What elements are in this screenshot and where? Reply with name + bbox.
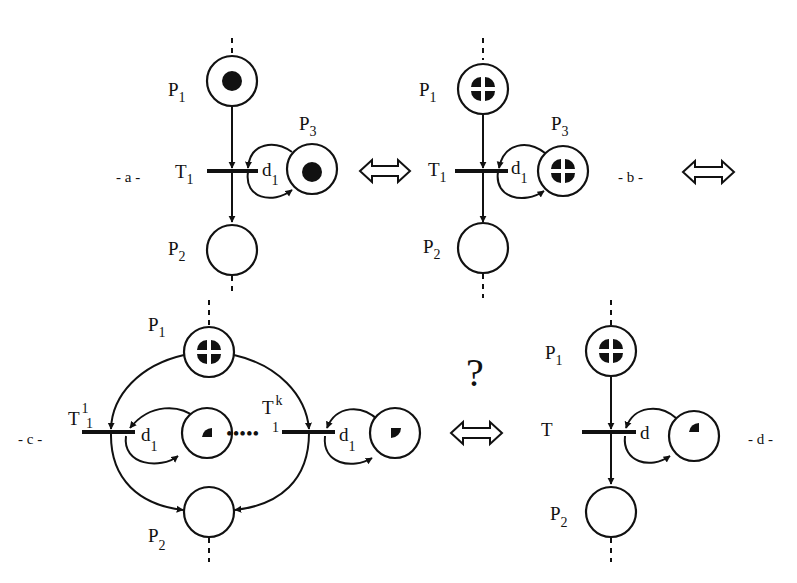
token-dot-icon — [222, 71, 242, 91]
place-p3-label: P3 — [299, 113, 317, 139]
transition-t1-last-label: Tk — [262, 393, 283, 418]
place-p2 — [207, 225, 257, 275]
arc-loop-in — [626, 409, 676, 428]
double-arrow-icon — [451, 422, 502, 444]
place-p1 — [586, 326, 636, 376]
place-p1 — [458, 64, 508, 114]
delay-d1-label: d1 — [141, 424, 158, 454]
petri-net-figure: P1 T1 P3 d1 P2 - a - P1 T1 — [0, 0, 797, 583]
transition-t1-label: T1 — [428, 159, 447, 185]
transition-t1-first-subscript: 1 — [86, 416, 93, 431]
double-arrow-icon — [360, 160, 410, 182]
transition-t1-label: T1 — [175, 161, 194, 187]
arc-p1-t1-first — [111, 355, 184, 429]
delay-d1-label: d1 — [511, 157, 528, 186]
place-p1-label: P1 — [168, 79, 186, 105]
panel-d-label: - d - — [748, 431, 773, 447]
equivalence-arrow-cd — [451, 422, 502, 444]
place-p2-label: P2 — [168, 238, 186, 264]
ellipsis: ••••• — [226, 423, 259, 444]
panel-d: P1 T d P2 - d - — [541, 300, 773, 562]
place-p1 — [184, 327, 234, 377]
token-dot-icon — [302, 162, 322, 182]
panel-b-label: - b - — [618, 169, 643, 185]
place-p2 — [458, 223, 508, 273]
panel-a: P1 T1 P3 d1 P2 - a - — [116, 38, 337, 296]
place-p1-label: P1 — [148, 314, 166, 340]
place-p2-label: P2 — [550, 503, 568, 530]
place-p2 — [184, 487, 234, 537]
panel-c: P1 T1 1 d1 ••••• Tk 1 d1 P2 - c - — [18, 300, 420, 562]
delay-d-label: d — [640, 422, 650, 443]
place-loop — [669, 411, 719, 461]
transition-t-label: T — [541, 419, 553, 440]
panel-a-label: - a - — [116, 169, 140, 185]
place-p1-label: P1 — [545, 342, 563, 368]
arc-t1-last-p2 — [235, 433, 309, 510]
panel-c-label: - c - — [18, 431, 42, 447]
place-p3 — [538, 146, 588, 196]
question-mark: ? — [466, 350, 484, 395]
place-p3-label: P3 — [551, 113, 569, 139]
place-p2-label: P2 — [423, 236, 441, 262]
delay-d1-label: d1 — [262, 159, 279, 188]
equivalence-arrow-ab — [360, 160, 410, 182]
place-p2 — [586, 487, 636, 537]
delay-d1-label: d1 — [339, 424, 356, 454]
transition-t1-last-subscript: 1 — [272, 420, 279, 435]
place-p2-label: P2 — [148, 525, 166, 553]
panel-b: P1 T1 P3 d1 P2 - b - — [419, 38, 643, 298]
double-arrow-icon — [683, 161, 734, 183]
place-p1-label: P1 — [419, 79, 437, 105]
equivalence-arrow-b — [683, 161, 734, 183]
